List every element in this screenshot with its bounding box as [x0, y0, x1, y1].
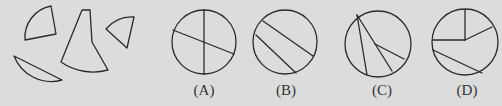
figure-drawing	[0, 0, 502, 106]
quarter-sector-piece	[25, 6, 56, 40]
option-b-figure[interactable]	[253, 10, 317, 74]
puzzle-figure: (A) (B) (C) (D)	[0, 0, 502, 106]
option-c-figure[interactable]	[345, 11, 411, 77]
circular-segment-piece	[14, 56, 62, 81]
option-d-figure[interactable]	[432, 9, 498, 75]
option-a-label[interactable]: (A)	[194, 82, 215, 99]
small-sector-piece	[106, 17, 134, 48]
option-c-label[interactable]: (C)	[372, 82, 392, 99]
option-d-label[interactable]: (D)	[457, 82, 478, 99]
pieces-group	[14, 6, 134, 81]
tall-sector-piece	[61, 10, 108, 72]
option-b-label[interactable]: (B)	[276, 82, 296, 99]
option-a-figure[interactable]	[172, 10, 236, 74]
